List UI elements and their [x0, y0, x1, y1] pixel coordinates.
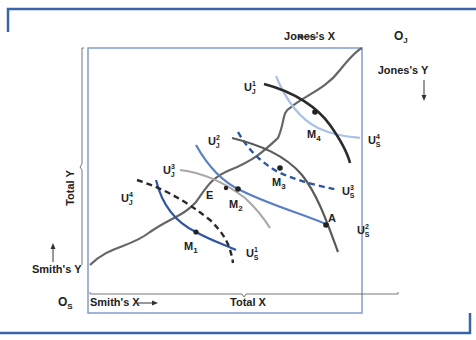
frame-corner-bottom-right: [0, 313, 470, 333]
label-us2: U2S: [357, 223, 370, 238]
label-uj4: U4J: [121, 191, 133, 206]
label-jones-x: Jones's X: [284, 30, 336, 42]
point-m4: [312, 109, 318, 115]
label-uj1: U1J: [244, 80, 256, 95]
curve-uj3: [180, 170, 270, 228]
curve-us2: [196, 145, 326, 224]
curve-us1: [156, 180, 236, 250]
label-jones-y: Jones's Y: [378, 64, 429, 76]
label-total-x: Total X: [230, 296, 267, 308]
edgeworth-box-diagram: M1 E M2 M3 M4 A U1J U2J U3J U4J U1S U2S …: [0, 0, 476, 340]
label-total-y: Total Y: [64, 170, 76, 206]
label-us1: U1S: [246, 246, 259, 261]
label-m2: M2: [229, 198, 243, 213]
point-m2: [235, 186, 241, 192]
frame-corner-top-left: [8, 9, 476, 32]
total-y-brace: [80, 48, 84, 265]
label-uj2: U2J: [208, 134, 220, 149]
label-m3: M3: [272, 176, 286, 191]
label-a: A: [328, 212, 336, 224]
arrowhead-right-icon: [152, 301, 158, 306]
point-m3: [277, 165, 283, 171]
label-us3: U3S: [342, 184, 355, 199]
origin-jones: OJ: [394, 29, 408, 45]
label-uj3: U3J: [163, 163, 175, 178]
curve-uj2: [232, 138, 338, 252]
label-us4: U4S: [368, 133, 381, 148]
point-e: [224, 186, 228, 190]
label-m1: M1: [184, 240, 198, 255]
arrowhead-up-icon: [51, 243, 56, 249]
origin-smith: OS: [58, 295, 73, 311]
contract-curve: [90, 48, 362, 265]
arrowhead-down-icon: [422, 95, 427, 101]
curve-us4: [276, 76, 360, 138]
point-m1: [193, 229, 198, 234]
label-m4: M4: [307, 128, 321, 143]
label-e: E: [206, 189, 213, 201]
label-smith-y: Smith's Y: [32, 263, 82, 275]
label-smith-x: Smith's X: [90, 296, 140, 308]
